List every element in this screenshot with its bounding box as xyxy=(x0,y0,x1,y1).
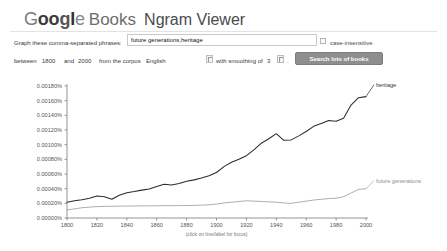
x-axis-tick-label[interactable]: 1880 xyxy=(180,222,192,228)
chart-svg[interactable]: 0.00000%0.00020%0.00040%0.00060%0.00080%… xyxy=(0,78,447,246)
case-insensitive-label: case-insensitive xyxy=(330,38,373,48)
y-axis-tick-label: 0.00080% xyxy=(37,156,62,162)
x-axis-tick-label[interactable]: 1840 xyxy=(121,222,133,228)
series-leader-heritage xyxy=(366,85,374,97)
options-row: between 1800 and 2000 from the corpus En… xyxy=(0,51,447,69)
smoothing-label: with smoothing of xyxy=(216,56,263,66)
logo-letter-e: e xyxy=(75,9,85,29)
y-axis-tick-label: 0.00140% xyxy=(37,112,62,118)
x-axis-tick-label[interactable]: 1820 xyxy=(91,222,103,228)
books-wordmark: Books xyxy=(89,10,136,29)
y-axis-tick-label: 0.00020% xyxy=(37,200,62,206)
query-form: Graph these comma-separated phrases: cas… xyxy=(0,33,447,69)
x-axis-tick-label[interactable]: 1920 xyxy=(240,222,252,228)
x-axis-tick-label[interactable]: 2000 xyxy=(360,222,372,228)
logo-letter-g: G xyxy=(24,9,38,29)
phrase-row: Graph these comma-separated phrases: cas… xyxy=(0,33,447,51)
between-label: between xyxy=(14,56,37,66)
y-axis-tick-label: 0.00160% xyxy=(37,98,62,104)
y-axis-tick-label: 0.00100% xyxy=(37,142,62,148)
smoothing-stepper-left-icon[interactable] xyxy=(206,55,213,63)
corpus-label: from the corpus xyxy=(99,56,141,66)
chart-focus-hint: (click on line/label for focus) xyxy=(186,231,248,237)
y-axis-tick-label: 0.00120% xyxy=(37,127,62,133)
y-axis-tick-label: 0.00180% xyxy=(37,83,62,89)
case-insensitive-checkbox[interactable] xyxy=(320,38,326,44)
year-from-field[interactable]: 1800 xyxy=(42,56,55,66)
google-logo: Google xyxy=(24,9,85,30)
smoothing-value[interactable]: 3 xyxy=(267,56,270,66)
page-header: Google BooksNgram Viewer xyxy=(24,9,245,30)
series-label-future-generations[interactable]: future generations xyxy=(376,178,421,184)
and-label: and xyxy=(64,56,74,66)
logo-letter-o1: o xyxy=(38,9,49,29)
x-axis-tick-label[interactable]: 1860 xyxy=(150,222,162,228)
y-axis-tick-label: 0.00000% xyxy=(37,215,62,221)
series-leader-future-generations xyxy=(366,181,374,189)
x-axis-tick-label[interactable]: 1800 xyxy=(61,222,73,228)
logo-letter-o2: o xyxy=(49,9,60,29)
phrase-label: Graph these comma-separated phrases: xyxy=(14,38,122,48)
period-label: . xyxy=(287,56,289,66)
y-axis-tick-label: 0.00040% xyxy=(37,186,62,192)
search-input[interactable] xyxy=(127,34,317,46)
x-axis-tick-label[interactable]: 1960 xyxy=(300,222,312,228)
page-title: Ngram Viewer xyxy=(144,11,245,28)
header-divider xyxy=(10,31,437,32)
series-line-heritage[interactable] xyxy=(67,97,366,203)
ngram-chart[interactable]: 0.00000%0.00020%0.00040%0.00060%0.00080%… xyxy=(0,78,447,246)
ngram-viewer-page: Google BooksNgram Viewer Graph these com… xyxy=(0,0,447,251)
series-label-heritage[interactable]: heritage xyxy=(376,82,396,88)
logo-letter-g2: g xyxy=(59,9,70,29)
x-axis-tick-label[interactable]: 1900 xyxy=(210,222,222,228)
corpus-select[interactable]: English xyxy=(146,56,166,66)
x-axis-tick-label[interactable]: 1980 xyxy=(330,222,342,228)
x-axis-tick-label[interactable]: 1940 xyxy=(270,222,282,228)
year-to-field[interactable]: 2000 xyxy=(78,56,91,66)
search-button[interactable]: Search lots of books xyxy=(295,52,383,65)
smoothing-stepper-right-icon[interactable] xyxy=(277,55,284,63)
y-axis-tick-label: 0.00060% xyxy=(37,171,62,177)
